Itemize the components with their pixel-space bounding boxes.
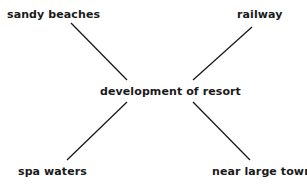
factor-spa-waters: spa waters <box>18 165 87 178</box>
connector-sandy-beaches <box>71 23 127 80</box>
central-topic: development of resort <box>100 85 241 98</box>
connector-spa-waters <box>67 102 127 160</box>
spider-diagram: sandy beaches railway development of res… <box>0 0 307 195</box>
factor-sandy-beaches: sandy beaches <box>7 8 100 21</box>
factor-near-large-towns: near large towns <box>212 165 307 178</box>
connector-near-large-towns <box>193 102 250 160</box>
connector-railway <box>193 27 252 80</box>
factor-railway: railway <box>237 8 283 21</box>
